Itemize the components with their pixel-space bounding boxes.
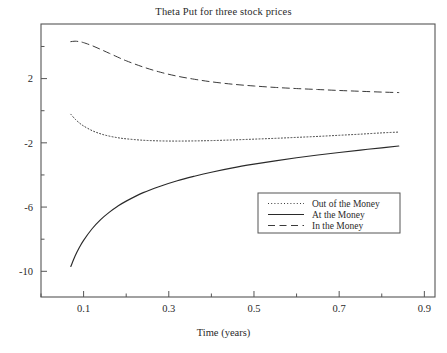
y-axis-ticks <box>41 46 47 271</box>
x-tick-label: 0.1 <box>77 303 90 314</box>
y-axis-tick-labels: 2-2-6-10 <box>19 73 33 277</box>
x-tick-label: 0.5 <box>247 303 260 314</box>
y-tick-label: -2 <box>24 138 33 149</box>
legend[interactable]: Out of the MoneyAt the MoneyIn the Money <box>258 193 400 233</box>
plot-svg: 0.10.30.50.70.9 2-2-6-10 Out of the Mone… <box>0 0 447 353</box>
x-tick-label: 0.7 <box>333 303 346 314</box>
y-tick-label: 2 <box>28 73 33 84</box>
plot-frame <box>41 24 435 297</box>
x-axis-tick-labels: 0.10.30.50.70.9 <box>77 303 431 314</box>
x-tick-label: 0.9 <box>418 303 431 314</box>
x-tick-label: 0.3 <box>162 303 175 314</box>
chart-figure: Theta Put for three stock prices Time (y… <box>0 0 447 353</box>
x-axis-ticks <box>41 291 424 297</box>
legend-label-2[interactable]: In the Money <box>312 221 363 231</box>
y-tick-label: -10 <box>19 266 33 277</box>
legend-label-0[interactable]: Out of the Money <box>312 199 380 209</box>
series-line-0 <box>71 114 399 141</box>
series-line-2 <box>71 41 399 92</box>
legend-label-1[interactable]: At the Money <box>312 210 365 220</box>
y-tick-label: -6 <box>24 202 33 213</box>
